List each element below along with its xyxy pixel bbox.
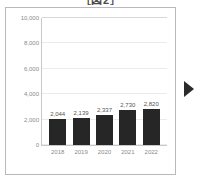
bar-group: 2,7302021 [119, 18, 136, 145]
bar-group: 2,0442018 [49, 18, 66, 145]
bar-value-label: 2,139 [74, 110, 89, 116]
y-axis-tick-label: 4,000 [24, 91, 39, 97]
bar-group: 2,3372020 [96, 18, 113, 145]
bar-group: 2,1392019 [73, 18, 90, 145]
bar-value-label: 2,730 [120, 102, 135, 108]
chart-title-cropped: ［図2］ [0, 0, 201, 5]
bar[interactable] [49, 119, 66, 145]
bar-chart: 02,0004,0006,0008,00010,000 2,04420182,1… [6, 8, 175, 174]
bar[interactable] [143, 109, 160, 145]
chart-card: 02,0004,0006,0008,00010,000 2,04420182,1… [5, 7, 176, 175]
bar-value-label: 2,337 [97, 107, 112, 113]
bar[interactable] [119, 110, 136, 145]
plot-area: 02,0004,0006,0008,00010,000 2,04420182,1… [41, 18, 167, 146]
chart-title: ［図2］ [0, 0, 201, 5]
y-axis-tick-label: 10,000 [21, 15, 39, 21]
x-axis-tick-label: 2018 [51, 149, 64, 155]
y-axis-tick-label: 0 [36, 142, 39, 148]
bar[interactable] [73, 118, 90, 145]
screenshot-root: ［図2］ 02,0004,0006,0008,00010,000 2,04420… [0, 0, 201, 188]
x-axis-tick-label: 2019 [74, 149, 87, 155]
bar-series: 2,04420182,13920192,33720202,73020212,82… [42, 18, 167, 145]
y-axis-tick-label: 6,000 [24, 66, 39, 72]
x-axis-tick-label: 2021 [121, 149, 134, 155]
y-axis-tick-label: 2,000 [24, 117, 39, 123]
play-arrow-icon[interactable] [184, 81, 194, 97]
x-axis-tick-label: 2020 [98, 149, 111, 155]
bar-value-label: 2,044 [50, 111, 65, 117]
x-axis-tick-label: 2022 [145, 149, 158, 155]
y-axis-tick-label: 8,000 [24, 40, 39, 46]
bar[interactable] [96, 115, 113, 145]
bar-value-label: 2,820 [144, 101, 159, 107]
bar-group: 2,8202022 [143, 18, 160, 145]
